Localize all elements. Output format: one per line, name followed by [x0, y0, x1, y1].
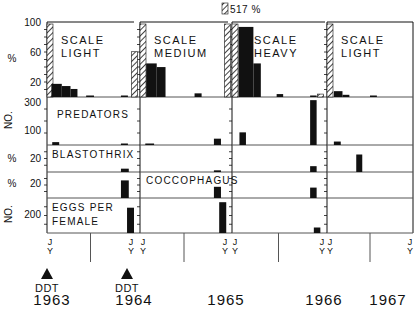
y-tick-label: 300 — [24, 97, 41, 108]
data-bar — [239, 132, 246, 145]
data-bar — [334, 142, 341, 145]
data-bar — [334, 91, 343, 97]
year-abbrev-start: Y — [140, 246, 146, 256]
chart: JYJYSCALELIGHTJYJYSCALEMEDIUMJYJYSCALEHE… — [0, 0, 420, 326]
panel-label-line1: SCALE — [154, 34, 198, 46]
row-label-eggs-line1: EGGS PER — [52, 202, 114, 213]
y-tick-label: 100 — [24, 17, 41, 28]
overflow-hatched-bar — [222, 3, 228, 14]
year-abbrev-start: Y — [327, 246, 333, 256]
y-axis-unit-blastothrix: % — [8, 153, 17, 164]
hatched-bar — [327, 24, 333, 97]
y-tick-label: 60 — [30, 47, 42, 58]
y-axis-unit-eggs: NO. — [3, 205, 14, 223]
data-bar — [195, 93, 202, 97]
year-abbrev-end: Y — [222, 246, 228, 256]
y-tick-label: 20 — [30, 77, 42, 88]
y-axis-unit-predators: NO. — [3, 111, 14, 129]
hatched-bar — [140, 24, 146, 97]
y-tick-label: 100 — [24, 125, 41, 136]
panel-label-line1: SCALE — [341, 34, 385, 46]
data-bar — [146, 63, 157, 97]
data-bar — [214, 170, 221, 172]
year-abbrev-start: Y — [232, 246, 238, 256]
year-abbrev-end: Y — [128, 246, 134, 256]
year-abbrev-end: Y — [319, 246, 325, 256]
panel-label-line1: SCALE — [254, 34, 298, 46]
panel-label-line2: LIGHT — [341, 47, 381, 59]
y-axis-unit-coccophagus: % — [8, 178, 17, 189]
data-bar — [219, 202, 226, 233]
data-bar — [127, 208, 134, 233]
y-tick-label: 20 — [30, 178, 42, 189]
row-label-eggs-line2: FEMALE — [52, 216, 99, 227]
hatched-bar — [232, 24, 238, 97]
data-bar — [314, 228, 321, 234]
data-bar — [277, 94, 284, 97]
data-bar — [370, 96, 377, 98]
data-bar — [121, 169, 129, 172]
data-bar — [52, 142, 59, 145]
data-bar — [310, 96, 317, 98]
data-bar — [145, 144, 154, 146]
data-bar — [62, 86, 71, 97]
data-bar — [253, 63, 260, 97]
data-bar — [214, 187, 221, 198]
data-bar — [239, 27, 254, 97]
panel-label-line1: SCALE — [61, 34, 105, 46]
data-bar — [121, 180, 129, 198]
data-bar — [342, 95, 349, 97]
data-bar — [310, 166, 317, 172]
data-bar — [157, 67, 166, 97]
data-bar — [310, 188, 317, 198]
data-bar — [310, 100, 317, 145]
data-bar — [121, 96, 128, 98]
panel-label-line2: HEAVY — [254, 47, 298, 59]
data-bar — [356, 155, 362, 173]
ddt-marker-label: DDT — [115, 282, 139, 294]
panel-label-line2: MEDIUM — [154, 47, 208, 59]
year-label: 1967 — [369, 291, 406, 308]
hatched-bar — [224, 24, 230, 97]
row-label-blastothrix: BLASTOTHRIX — [52, 149, 134, 160]
y-tick-label: 200 — [24, 209, 41, 220]
hatched-bar — [131, 52, 137, 97]
year-abbrev-start: Y — [47, 246, 53, 256]
year-abbrev-end: Y — [407, 246, 413, 256]
y-tick-label: 20 — [30, 153, 42, 164]
year-label: 1965 — [207, 291, 244, 308]
data-bar — [214, 139, 221, 145]
ddt-marker-triangle-icon — [41, 268, 53, 279]
year-label: 1966 — [305, 291, 342, 308]
overflow-annotation: 517 % — [230, 4, 261, 15]
data-bar — [121, 144, 128, 146]
hatched-bar — [318, 94, 324, 97]
data-bar — [86, 96, 94, 98]
row-label-coccophagus: COCCOPHAGUS — [146, 175, 239, 186]
data-bar — [51, 84, 61, 97]
data-bar — [70, 89, 77, 97]
panel-label-line2: LIGHT — [61, 47, 101, 59]
ddt-marker-triangle-icon — [121, 268, 133, 279]
ddt-marker-label: DDT — [35, 282, 59, 294]
y-axis-unit-scale: % — [8, 53, 17, 64]
row-label-predators: PREDATORS — [57, 109, 129, 120]
